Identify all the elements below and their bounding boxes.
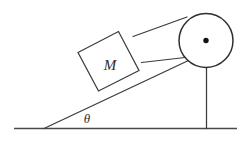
diagram-canvas: M θ: [0, 0, 250, 144]
angle-label: θ: [84, 111, 91, 126]
pulley-axle-dot: [203, 38, 208, 43]
rope-lower-strand: [142, 58, 186, 63]
mass-label: M: [103, 57, 118, 73]
physics-diagram: M θ: [0, 0, 250, 144]
rope-upper-strand: [133, 17, 187, 37]
